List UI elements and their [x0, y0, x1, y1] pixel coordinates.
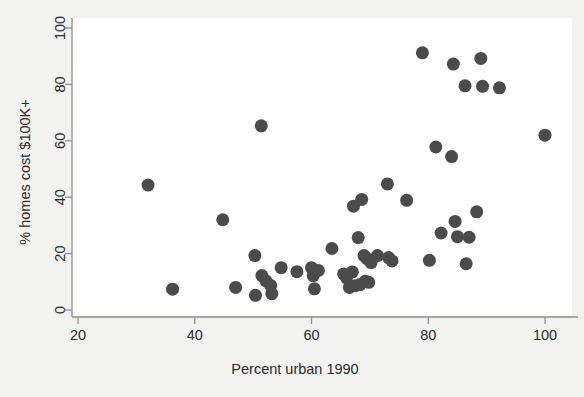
data-point: [275, 261, 288, 274]
y-tick-label: 0: [52, 306, 68, 314]
data-point: [474, 52, 487, 65]
y-tick-label: 60: [52, 133, 68, 149]
data-point: [249, 289, 262, 302]
data-point: [312, 264, 325, 277]
data-point: [290, 265, 303, 278]
y-axis-title: % homes cost $100K+: [17, 99, 33, 245]
data-point: [459, 79, 472, 92]
data-point: [476, 80, 489, 93]
x-tick-label: 100: [533, 327, 557, 343]
y-tick-label: 100: [52, 16, 68, 40]
x-tick-label: 40: [187, 327, 203, 343]
data-point: [447, 58, 460, 71]
data-point: [386, 254, 399, 267]
data-point: [400, 194, 413, 207]
data-point: [429, 141, 442, 154]
data-point: [381, 177, 394, 190]
data-point: [265, 287, 278, 300]
data-point: [435, 227, 448, 240]
x-axis-title: Percent urban 1990: [231, 361, 358, 377]
data-point: [493, 81, 506, 94]
y-tick-label: 40: [52, 189, 68, 205]
y-tick-label: 20: [52, 246, 68, 262]
data-point: [470, 205, 483, 218]
data-point: [325, 242, 338, 255]
data-point: [248, 249, 261, 262]
data-point: [229, 281, 242, 294]
data-point: [449, 215, 462, 228]
x-tick-label: 60: [303, 327, 319, 343]
data-point: [142, 179, 155, 192]
data-point: [451, 230, 464, 243]
data-point: [346, 265, 359, 278]
data-point: [371, 249, 384, 262]
data-point: [463, 231, 476, 244]
data-point: [355, 193, 368, 206]
data-point: [460, 257, 473, 270]
y-tick-label: 80: [52, 76, 68, 92]
data-point: [445, 150, 458, 163]
data-point: [416, 46, 429, 59]
x-tick-label: 80: [420, 327, 436, 343]
scatter-plot-figure: 020406080100 20406080100 Percent urban 1…: [0, 0, 584, 397]
data-point: [308, 282, 321, 295]
x-tick-label: 20: [70, 327, 86, 343]
data-point: [216, 213, 229, 226]
data-point: [423, 254, 436, 267]
data-point: [255, 119, 268, 132]
data-point: [362, 276, 375, 289]
data-point: [166, 283, 179, 296]
scatter-plot-canvas: 020406080100 20406080100 Percent urban 1…: [0, 0, 584, 397]
data-point: [539, 129, 552, 142]
data-point: [352, 231, 365, 244]
